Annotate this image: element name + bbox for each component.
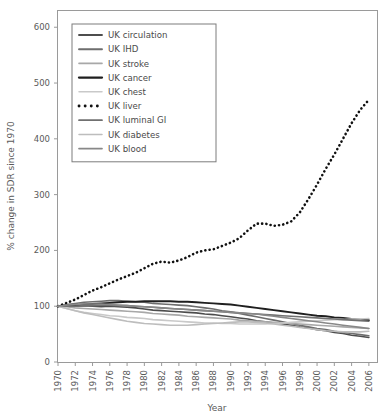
- legend-label[interactable]: UK chest: [108, 87, 147, 97]
- y-tick-label: 500: [34, 78, 50, 88]
- y-tick-label: 600: [34, 22, 50, 32]
- y-axis-title: % change in SDR since 1970: [6, 121, 16, 251]
- y-tick-label: 300: [34, 190, 50, 200]
- legend-label[interactable]: UK circulation: [108, 30, 167, 40]
- x-tick-label: 2002: [329, 370, 339, 392]
- legend-label[interactable]: UK luminal GI: [108, 115, 166, 125]
- legend-label[interactable]: UK stroke: [108, 59, 149, 69]
- x-tick-label: 1984: [174, 370, 184, 392]
- x-tick-label: 1978: [122, 370, 132, 392]
- y-tick-label: 100: [34, 301, 50, 311]
- x-tick-label: 1996: [278, 370, 288, 392]
- x-tick-label: 2006: [364, 370, 374, 392]
- x-axis-title: Year: [206, 403, 226, 413]
- legend-label[interactable]: UK diabetes: [108, 130, 160, 140]
- x-axis-tick-labels: 1970197219741976197819801982198419861988…: [53, 370, 374, 392]
- x-tick-label: 2000: [312, 370, 322, 392]
- x-tick-label: 1970: [53, 370, 63, 392]
- x-tick-label: 2004: [347, 370, 357, 392]
- x-tick-label: 1974: [88, 370, 98, 392]
- legend-label[interactable]: UK blood: [108, 144, 146, 154]
- y-axis-tick-labels: 0100200300400500600: [34, 22, 50, 367]
- x-tick-label: 1990: [226, 370, 236, 392]
- sdr-change-line-chart: 0100200300400500600 19701972197419761978…: [0, 0, 392, 416]
- chart-legend: UK circulationUK IHDUK strokeUK cancerUK…: [72, 24, 216, 162]
- legend-label[interactable]: UK liver: [108, 101, 142, 111]
- x-tick-label: 1988: [208, 370, 218, 392]
- x-tick-label: 1986: [191, 370, 201, 392]
- series-line: [58, 305, 369, 321]
- legend-label[interactable]: UK cancer: [108, 73, 152, 83]
- x-tick-label: 1998: [295, 370, 305, 392]
- x-tick-label: 1994: [260, 370, 270, 392]
- legend-label[interactable]: UK IHD: [108, 44, 139, 54]
- x-tick-label: 1980: [139, 370, 149, 392]
- x-tick-label: 1972: [70, 370, 80, 392]
- y-tick-label: 200: [34, 245, 50, 255]
- y-tick-label: 0: [45, 357, 50, 367]
- y-tick-label: 400: [34, 134, 50, 144]
- x-tick-label: 1976: [105, 370, 115, 392]
- chart-container: 0100200300400500600 19701972197419761978…: [0, 0, 392, 416]
- x-tick-label: 1992: [243, 370, 253, 392]
- x-tick-label: 1982: [157, 370, 167, 392]
